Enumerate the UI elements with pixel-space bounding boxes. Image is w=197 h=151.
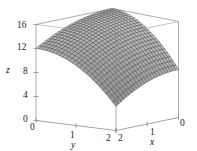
surface-plot-figure: 16 12 8 4 0 z 0 1 2 y 2 1 0 x xyxy=(0,0,197,151)
x-axis-label: x xyxy=(150,138,154,148)
x-tick-0: 0 xyxy=(180,119,185,129)
x-tick-2: 2 xyxy=(118,134,123,144)
y-axis-label: y xyxy=(71,141,75,151)
z-axis-label: z xyxy=(6,66,10,76)
z-tick-4: 4 xyxy=(23,91,28,101)
z-tick-12: 12 xyxy=(17,43,27,53)
y-tick-2: 2 xyxy=(106,134,111,144)
surface-mesh xyxy=(36,9,179,107)
z-tick-0: 0 xyxy=(23,115,28,125)
z-tick-8: 8 xyxy=(23,67,28,77)
z-tick-16: 16 xyxy=(17,21,27,31)
y-tick-0: 0 xyxy=(30,123,35,133)
